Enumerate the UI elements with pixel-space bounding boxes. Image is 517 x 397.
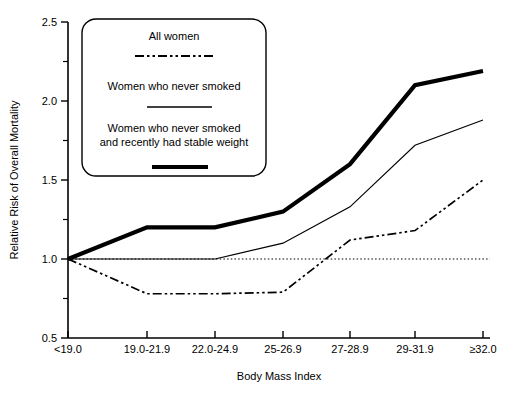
chart-page: 0.51.01.52.02.5 <19.019.0-21.922.0-24.92…: [0, 0, 517, 397]
legend-label-all-women: All women: [149, 30, 200, 42]
legend-box: [82, 19, 266, 176]
chart-legend: All women Women who never smoked Women w…: [82, 19, 266, 176]
y-tick-label-2.5: 2.5: [42, 16, 57, 28]
y-tick-label-1.5: 1.5: [42, 174, 57, 186]
legend-label-never-smoked: Women who never smoked: [107, 80, 240, 92]
x-tick-label-1: 19.0-21.9: [124, 343, 170, 355]
x-tick-label-0: <19.0: [54, 343, 82, 355]
x-tick-label-4: 27-28.9: [331, 343, 368, 355]
legend-label-never-smoked-stable-line1: Women who never smoked: [107, 122, 240, 134]
x-tick-label-5: 29-31.9: [396, 343, 433, 355]
y-tick-label-1.0: 1.0: [42, 253, 57, 265]
y-tick-label-2.0: 2.0: [42, 95, 57, 107]
legend-label-never-smoked-stable-line2: and recently had stable weight: [100, 136, 249, 148]
relative-risk-mortality-line-chart: 0.51.01.52.02.5 <19.019.0-21.922.0-24.92…: [0, 0, 517, 397]
x-tick-label-3: 25-26.9: [264, 343, 301, 355]
y-axis-title: Relative Risk of Overall Mortality: [8, 100, 20, 259]
x-axis-title: Body Mass Index: [237, 370, 322, 382]
x-tick-label-2: 22.0-24.9: [192, 343, 238, 355]
x-tick-label-6: ≥32.0: [469, 343, 496, 355]
